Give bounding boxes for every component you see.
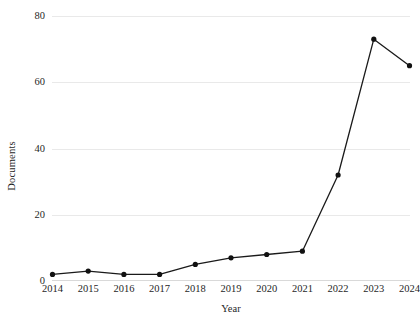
x-axis-tick-label: 2020	[256, 284, 277, 295]
y-axis-tick-label: 20	[35, 210, 46, 221]
plot-area: 020406080	[52, 16, 410, 281]
y-axis-tick-label: 80	[35, 11, 46, 22]
series-line	[53, 39, 410, 274]
x-axis-title: Year	[52, 304, 410, 315]
data-point-marker	[121, 272, 126, 277]
x-axis-tick-label: 2024	[399, 284, 420, 295]
data-point-marker	[336, 172, 341, 177]
x-axis-tick-label: 2019	[221, 284, 242, 295]
x-axis-tick-label: 2018	[185, 284, 206, 295]
data-point-marker	[300, 249, 305, 254]
data-point-marker	[228, 255, 233, 260]
x-axis-tick-label: 2016	[113, 284, 134, 295]
data-point-marker	[50, 272, 55, 277]
data-point-marker	[157, 272, 162, 277]
y-axis-tick-label: 60	[35, 77, 46, 88]
data-point-marker	[371, 37, 376, 42]
data-point-marker	[86, 268, 91, 273]
x-axis-tick-labels: 2014201520162017201820192020202120222023…	[52, 284, 410, 298]
x-axis-tick-label: 2023	[363, 284, 384, 295]
x-axis-tick-label: 2014	[42, 284, 63, 295]
data-point-marker	[193, 262, 198, 267]
data-point-marker	[264, 252, 269, 257]
x-axis-tick-label: 2021	[292, 284, 313, 295]
x-axis-tick-label: 2015	[78, 284, 99, 295]
x-axis-tick-label: 2017	[149, 284, 170, 295]
data-point-marker	[407, 63, 412, 68]
x-axis-tick-label: 2022	[328, 284, 349, 295]
y-axis-title: Documents	[7, 141, 18, 191]
y-axis-tick-label: 40	[35, 143, 46, 154]
series-documents	[52, 16, 410, 281]
